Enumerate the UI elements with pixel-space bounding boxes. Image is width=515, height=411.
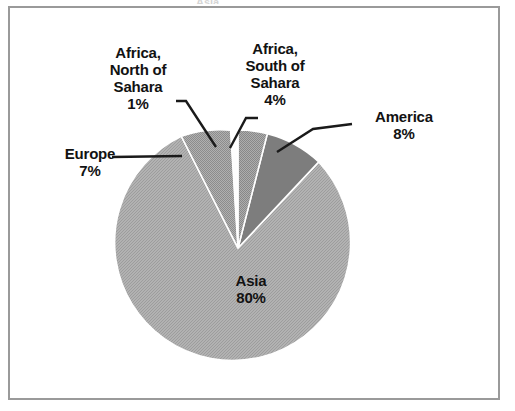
pie-label-america: America 8% <box>352 108 456 142</box>
pie-label-asia: Asia 80% <box>206 272 296 306</box>
pie-label-africa-south-of-sahara: Africa, South of Sahara 4% <box>226 40 324 108</box>
pie-label-africa-north-of-sahara: Africa, North of Sahara 1% <box>86 44 190 112</box>
pie-chart-figure: Asia <box>0 0 515 411</box>
pie-label-europe: Europe 7% <box>42 145 138 179</box>
